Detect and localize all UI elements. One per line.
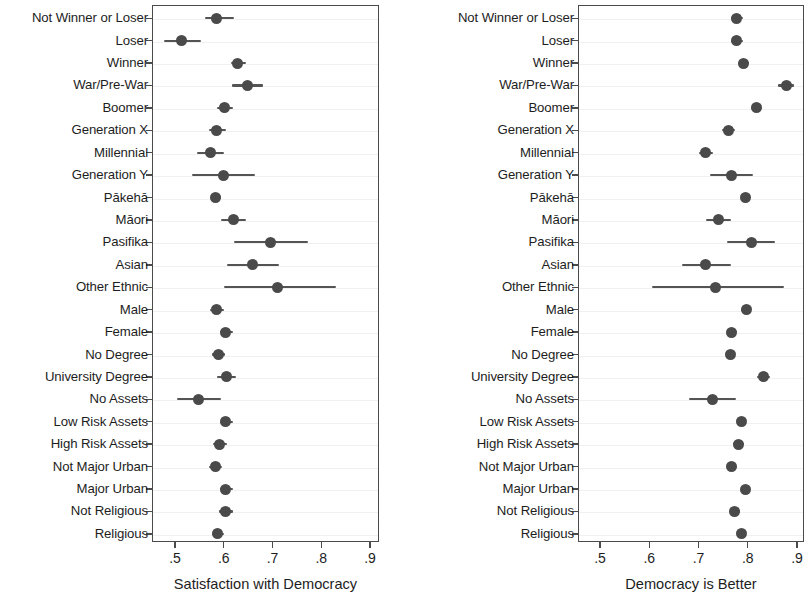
gridline (579, 356, 803, 357)
x-axis-tick-label: .9 (777, 550, 812, 566)
y-axis-label: Winner (0, 56, 148, 69)
data-point-marker (265, 237, 276, 248)
data-point-marker (758, 371, 769, 382)
gridline (579, 423, 803, 424)
data-point-marker (220, 327, 231, 338)
plot-area-right (578, 5, 804, 542)
y-axis-label: Other Ethnic (344, 280, 574, 293)
figure-root: Not Winner or LoserLoserWinnerWar/Pre-Wa… (0, 0, 812, 596)
x-axis-tick (698, 542, 699, 548)
y-axis-label: Not Winner or Loser (344, 11, 574, 24)
data-point-marker (746, 237, 757, 248)
data-point-marker (247, 259, 258, 270)
x-axis-tick-label: .5 (580, 550, 620, 566)
y-axis-label: No Degree (0, 348, 148, 361)
y-axis-label: Loser (344, 34, 574, 47)
y-axis-label: Asian (0, 258, 148, 271)
x-axis-tick-label: .6 (204, 550, 244, 566)
x-axis-tick (369, 542, 370, 548)
gridline (579, 468, 803, 469)
y-axis-label: Male (344, 303, 574, 316)
y-axis-label: Māori (0, 213, 148, 226)
y-axis-label: Pasifika (0, 235, 148, 248)
x-axis-tick-label: .7 (679, 550, 719, 566)
gridline (579, 311, 803, 312)
gridline (579, 131, 803, 132)
data-point-marker (218, 170, 229, 181)
gridline (579, 109, 803, 110)
y-axis-label: Boomer (344, 101, 574, 114)
gridline (579, 490, 803, 491)
gridline (579, 221, 803, 222)
gridline (579, 445, 803, 446)
x-axis-tick (796, 542, 797, 548)
data-point-marker (232, 58, 243, 69)
y-axis-label: Not Religious (344, 504, 574, 517)
gridline (579, 535, 803, 536)
data-point-marker (220, 506, 231, 517)
y-axis-label: Boomer (0, 101, 148, 114)
x-axis-tick (649, 542, 650, 548)
y-axis-label: University Degree (0, 370, 148, 383)
data-point-marker (710, 282, 721, 293)
data-point-marker (733, 439, 744, 450)
x-axis-tick-label: .8 (301, 550, 341, 566)
data-point-marker (725, 349, 736, 360)
y-axis-label: Not Major Urban (344, 460, 574, 473)
gridline (579, 243, 803, 244)
data-point-marker (707, 394, 718, 405)
y-axis-label: Pākehā (0, 191, 148, 204)
y-axis-label: Male (0, 303, 148, 316)
data-point-marker (210, 461, 221, 472)
x-axis-tick (599, 542, 600, 548)
y-axis-label: Female (344, 325, 574, 338)
gridline (579, 19, 803, 20)
y-axis-label: Māori (344, 213, 574, 226)
y-axis-label: No Degree (344, 348, 574, 361)
y-axis-label: Not Winner or Loser (0, 11, 148, 24)
data-point-marker (723, 125, 734, 136)
y-axis-label: No Assets (0, 392, 148, 405)
gridline (579, 154, 803, 155)
y-axis-label: War/Pre-War (0, 78, 148, 91)
data-point-marker (242, 80, 253, 91)
x-axis-tick-label: .7 (253, 550, 293, 566)
data-point-marker (751, 102, 762, 113)
y-axis-label: Religious (344, 527, 574, 540)
y-axis-label: Pākehā (344, 191, 574, 204)
y-axis-label: Winner (344, 56, 574, 69)
data-point-marker (193, 394, 204, 405)
gridline (579, 266, 803, 267)
gridline (579, 333, 803, 334)
gridline (579, 199, 803, 200)
x-axis-tick-label: .9 (350, 550, 390, 566)
data-point-marker (738, 58, 749, 69)
y-axis-label: Low Risk Assets (0, 415, 148, 428)
y-axis-label: Loser (0, 34, 148, 47)
gridline (579, 86, 803, 87)
y-axis-label: Millennial (0, 146, 148, 159)
data-point-marker (228, 214, 239, 225)
x-axis-tick-label: .5 (155, 550, 195, 566)
x-axis-title-left: Satisfaction with Democracy (116, 576, 416, 592)
gridline (579, 378, 803, 379)
x-axis-tick (321, 542, 322, 548)
x-axis-tick (747, 542, 748, 548)
x-axis-tick (223, 542, 224, 548)
y-axis-label: High Risk Assets (344, 437, 574, 450)
data-point-marker (205, 147, 216, 158)
x-axis-title-right: Democracy is Better (541, 576, 812, 592)
y-axis-label: Major Urban (0, 482, 148, 495)
gridline (579, 42, 803, 43)
y-axis-label: Generation X (0, 123, 148, 136)
y-axis-label: Generation Y (0, 168, 148, 181)
y-axis-label: Major Urban (344, 482, 574, 495)
data-point-marker (214, 439, 225, 450)
y-axis-label: Generation X (344, 123, 574, 136)
gridline (579, 400, 803, 401)
y-axis-label: Asian (344, 258, 574, 271)
gridline (579, 176, 803, 177)
x-axis-tick (174, 542, 175, 548)
y-axis-label: War/Pre-War (344, 78, 574, 91)
data-point-marker (740, 484, 751, 495)
